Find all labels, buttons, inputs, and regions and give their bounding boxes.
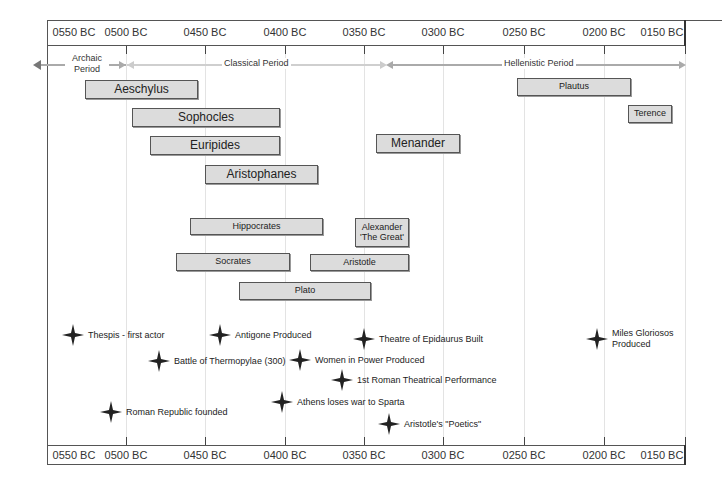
event-marker: Battle of Thermopylae (300) — [148, 350, 285, 372]
bottom-axis-label: 0150 BC — [641, 449, 684, 461]
axis-tick — [443, 46, 444, 54]
event-marker: Women in Power Produced — [289, 349, 424, 371]
archaic-label-line2: Period — [74, 64, 100, 74]
star-icon — [209, 324, 231, 346]
hellenistic-period-label: Hellenistic Period — [502, 58, 576, 69]
top-axis-label: 0350 BC — [343, 26, 386, 38]
arrow-left-icon — [33, 60, 41, 70]
event-label: Aristotle's "Poetics" — [404, 419, 481, 430]
star-icon — [100, 401, 122, 423]
person-name: Sophocles — [178, 111, 234, 124]
bottom-axis-label: 0200 BC — [583, 449, 626, 461]
person-bar-plato: Plato — [239, 282, 371, 300]
top-axis-line-extension — [686, 20, 722, 21]
top-axis-label: 0550 BC — [53, 26, 96, 38]
star-icon — [289, 349, 311, 371]
axis-tick — [364, 46, 365, 54]
person-bar-alexander-the-great: Alexander 'The Great' — [355, 218, 409, 247]
person-bar-aristophanes: Aristophanes — [205, 165, 318, 184]
top-axis-label: 0500 BC — [105, 26, 148, 38]
axis-tick — [604, 46, 605, 54]
bottom-axis-label: 0250 BC — [503, 449, 546, 461]
star-icon — [353, 328, 375, 350]
axis-tick — [685, 437, 686, 445]
person-name: Aeschylus — [114, 83, 169, 96]
axis-tick — [524, 437, 525, 445]
event-label: 1st Roman Theatrical Performance — [357, 375, 496, 386]
event-marker: Theatre of Epidaurus Built — [353, 328, 483, 350]
gridline — [685, 46, 686, 445]
person-name: Plautus — [559, 82, 589, 92]
bottom-axis-label: 0450 BC — [184, 449, 227, 461]
bottom-axis-right-cap — [684, 445, 686, 465]
bottom-axis-label: 0350 BC — [343, 449, 386, 461]
person-bar-sophocles: Sophocles — [132, 108, 280, 127]
person-bar-aristotle: Aristotle — [310, 254, 409, 271]
bottom-axis-label: 0400 BC — [264, 449, 307, 461]
axis-tick — [443, 437, 444, 445]
bottom-axis-label: 0550 BC — [53, 449, 96, 461]
person-name: Hippocrates — [232, 222, 280, 232]
axis-tick — [205, 437, 206, 445]
person-name: Aristotle — [343, 258, 376, 268]
arrow-right-icon — [119, 61, 126, 69]
person-bar-menander: Menander — [376, 134, 460, 153]
star-icon — [331, 369, 353, 391]
event-marker: Athens loses war to Sparta — [271, 391, 405, 413]
person-name: Plato — [295, 286, 316, 296]
axis-tick — [126, 437, 127, 445]
bottom-axis-label: 0300 BC — [422, 449, 465, 461]
axis-tick — [604, 437, 605, 445]
star-icon — [378, 413, 400, 435]
person-name: Socrates — [215, 257, 251, 267]
person-name: Terence — [634, 109, 666, 119]
top-axis-label: 0300 BC — [422, 26, 465, 38]
axis-tick — [524, 46, 525, 54]
event-label: Roman Republic founded — [126, 407, 228, 418]
top-axis-label: 0250 BC — [503, 26, 546, 38]
event-label: Antigone Produced — [235, 330, 312, 341]
axis-tick — [685, 46, 686, 54]
arrow-left-icon — [127, 61, 134, 69]
classical-label: Classical Period — [224, 58, 289, 68]
top-axis-label: 0400 BC — [264, 26, 307, 38]
star-icon — [62, 324, 84, 346]
event-label: Thespis - first actor — [88, 330, 165, 341]
person-bar-aeschylus: Aeschylus — [85, 80, 198, 99]
person-name: Menander — [391, 137, 445, 150]
top-axis-label: 0450 BC — [184, 26, 227, 38]
event-marker: 1st Roman Theatrical Performance — [331, 369, 496, 391]
gridline — [524, 46, 525, 445]
gridline — [285, 46, 286, 445]
event-marker: Thespis - first actor — [62, 324, 165, 346]
event-marker: Roman Republic founded — [100, 401, 228, 423]
archaic-label-line1: Archaic — [72, 53, 102, 63]
axis-tick — [205, 46, 206, 54]
axis-tick — [364, 437, 365, 445]
person-bar-terence: Terence — [628, 105, 672, 123]
star-icon — [586, 328, 608, 350]
top-axis-right-cap — [684, 20, 686, 46]
bottom-axis-label: 0500 BC — [105, 449, 148, 461]
axis-tick — [285, 437, 286, 445]
event-label: Miles Gloriosos Produced — [612, 328, 676, 350]
event-label: Athens loses war to Sparta — [297, 397, 405, 408]
axis-tick — [285, 46, 286, 54]
gridline — [205, 46, 206, 445]
event-label: Theatre of Epidaurus Built — [379, 334, 483, 345]
gridline — [126, 46, 127, 445]
person-bar-hippocrates: Hippocrates — [190, 218, 323, 235]
archaic-period-label: Archaic Period — [65, 53, 109, 75]
event-label: Women in Power Produced — [315, 355, 424, 366]
event-marker: Aristotle's "Poetics" — [378, 413, 481, 435]
person-name: Euripides — [190, 139, 240, 152]
top-axis-label: 0200 BC — [583, 26, 626, 38]
star-icon — [271, 391, 293, 413]
classical-period-label: Classical Period — [222, 58, 291, 69]
person-bar-socrates: Socrates — [176, 253, 290, 271]
top-axis-label: 0150 BC — [641, 26, 684, 38]
axis-tick — [126, 46, 127, 54]
timeline-left-edge — [47, 46, 48, 445]
person-bar-plautus: Plautus — [517, 78, 631, 96]
arrow-right-icon — [679, 61, 686, 69]
